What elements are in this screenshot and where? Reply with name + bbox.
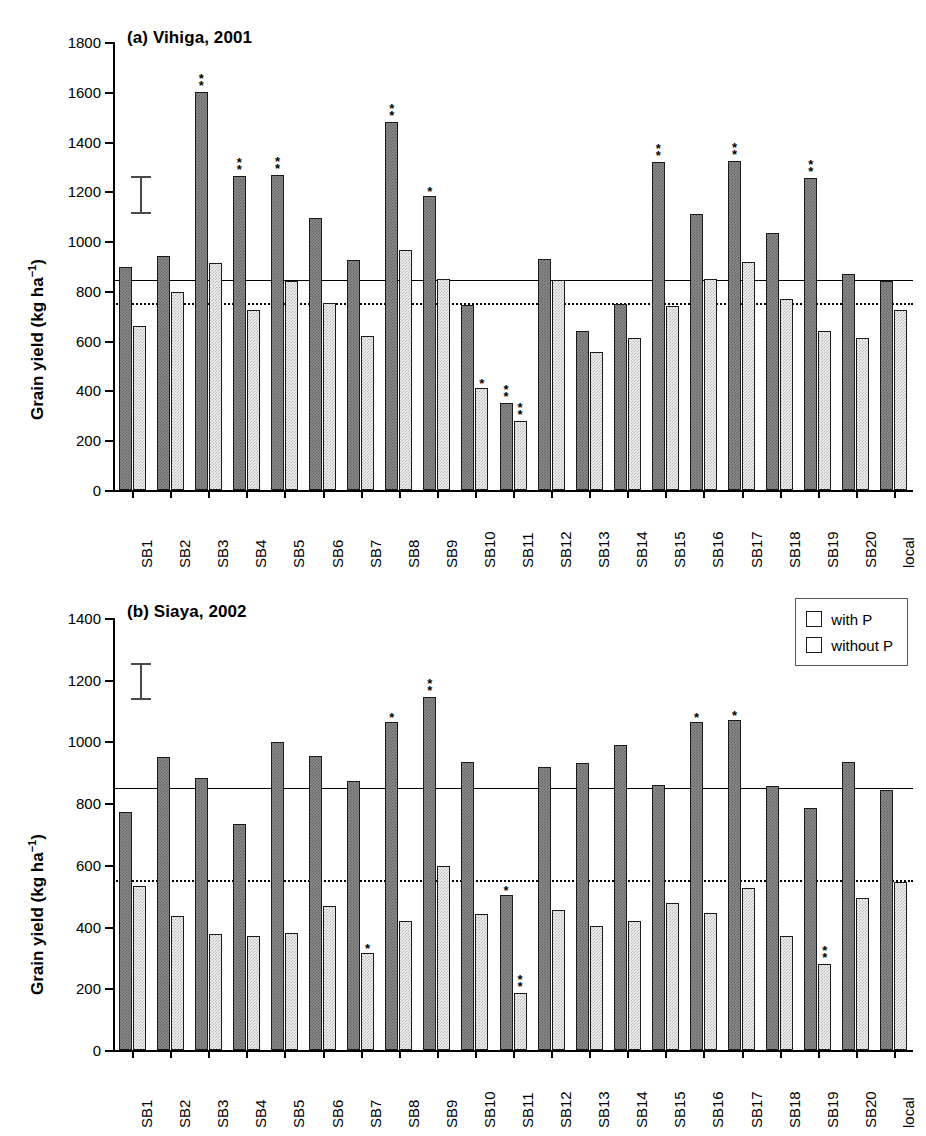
y-axis-tick-label: 600 bbox=[45, 856, 101, 873]
y-axis-tick-label: 1200 bbox=[45, 671, 101, 688]
bar-without-p bbox=[742, 262, 755, 490]
bar-with-p bbox=[690, 214, 703, 490]
bar-without-p bbox=[361, 953, 374, 1050]
bar-with-p bbox=[652, 785, 665, 1050]
legend-label-with-p: with P bbox=[831, 611, 872, 628]
bar-with-p bbox=[880, 790, 893, 1050]
bar-without-p bbox=[666, 306, 679, 490]
reference-line-solid bbox=[113, 788, 913, 789]
x-axis-tick-label: SB2 bbox=[176, 540, 193, 568]
y-axis-tick bbox=[105, 191, 113, 193]
legend: with P without P bbox=[795, 598, 908, 666]
significance-marker: * * bbox=[503, 386, 508, 400]
x-axis-tick bbox=[513, 490, 515, 498]
bar-with-p bbox=[842, 762, 855, 1051]
x-axis-tick-label: SB12 bbox=[557, 531, 574, 568]
figure-root: (a) Vihiga, 2001 Grain yield (kg ha−1) 0… bbox=[0, 0, 926, 1136]
x-axis-tick bbox=[780, 1050, 782, 1058]
bar-with-p bbox=[271, 175, 284, 490]
significance-marker: * * bbox=[517, 976, 522, 990]
lsd-cap-bottom bbox=[131, 212, 151, 214]
x-axis-tick-label: SB14 bbox=[633, 531, 650, 568]
bar-without-p bbox=[361, 336, 374, 490]
x-axis-tick bbox=[475, 490, 477, 498]
bar-without-p bbox=[590, 926, 603, 1050]
lsd-cap-bottom bbox=[131, 698, 151, 700]
x-axis-tick bbox=[170, 490, 172, 498]
y-axis-tick-label: 600 bbox=[45, 332, 101, 349]
significance-marker: * bbox=[479, 380, 484, 387]
panel-b-plot-area: 0200400600800100012001400SB1SB2SB3SB4SB5… bbox=[113, 618, 913, 1050]
y-axis-tick-label: 400 bbox=[45, 382, 101, 399]
x-axis-tick bbox=[703, 490, 705, 498]
bar-without-p bbox=[399, 250, 412, 490]
x-axis-tick bbox=[589, 1050, 591, 1058]
x-axis-tick-label: SB11 bbox=[519, 532, 536, 568]
y-axis-tick bbox=[105, 42, 113, 44]
x-axis-tick-label: SB19 bbox=[824, 1091, 841, 1128]
bar-without-p bbox=[818, 331, 831, 490]
x-axis-tick-label: SB20 bbox=[862, 1091, 879, 1128]
significance-marker: * bbox=[694, 714, 699, 721]
bar-without-p bbox=[285, 933, 298, 1050]
x-axis-tick bbox=[627, 1050, 629, 1058]
y-axis-tick bbox=[105, 865, 113, 867]
y-axis-tick-label: 200 bbox=[45, 432, 101, 449]
x-axis-tick-label: SB4 bbox=[252, 1100, 269, 1128]
significance-marker: * * bbox=[237, 159, 242, 173]
bar-with-p bbox=[119, 267, 132, 490]
bar-without-p bbox=[399, 921, 412, 1050]
bar-without-p bbox=[742, 888, 755, 1050]
x-axis-tick-label: SB9 bbox=[443, 1100, 460, 1128]
legend-item-without-p: without P bbox=[806, 632, 893, 658]
x-axis-tick-label: SB17 bbox=[748, 1091, 765, 1128]
bar-without-p bbox=[628, 338, 641, 490]
bar-with-p bbox=[271, 742, 284, 1050]
y-axis-tick bbox=[105, 1050, 113, 1052]
bar-with-p bbox=[652, 162, 665, 490]
y-axis-tick bbox=[105, 680, 113, 682]
x-axis-tick-label: SB2 bbox=[176, 1100, 193, 1128]
x-axis-tick bbox=[513, 1050, 515, 1058]
x-axis-tick bbox=[703, 1050, 705, 1058]
y-axis-tick bbox=[105, 988, 113, 990]
panel-a-plot-area: 020040060080010001200140016001800SB1SB2*… bbox=[113, 42, 913, 490]
bar-with-p bbox=[690, 722, 703, 1050]
chart-panel-b: (b) Siaya, 2002 Grain yield (kg ha−1) 02… bbox=[0, 580, 926, 1136]
bar-with-p bbox=[842, 274, 855, 490]
bar-with-p bbox=[233, 176, 246, 490]
lsd-stem bbox=[140, 663, 142, 700]
y-axis-tick-label: 1000 bbox=[45, 233, 101, 250]
bar-with-p bbox=[576, 763, 589, 1050]
y-axis-tick-label: 200 bbox=[45, 980, 101, 997]
bar-with-p bbox=[347, 781, 360, 1050]
bar-without-p bbox=[209, 934, 222, 1050]
x-axis-tick bbox=[818, 1050, 820, 1058]
y-axis-tick bbox=[105, 341, 113, 343]
bar-without-p bbox=[514, 993, 527, 1050]
x-axis-tick-label: SB18 bbox=[786, 1091, 803, 1128]
legend-label-without-p: without P bbox=[831, 637, 893, 654]
bar-without-p bbox=[247, 936, 260, 1050]
x-axis-tick-label: SB12 bbox=[557, 1091, 574, 1128]
y-axis-tick-label: 0 bbox=[45, 1042, 101, 1059]
legend-swatch-with-p bbox=[806, 611, 822, 627]
y-axis-line bbox=[113, 42, 115, 490]
significance-marker: * * bbox=[808, 161, 813, 175]
bar-with-p bbox=[461, 305, 474, 490]
y-axis-tick-label: 400 bbox=[45, 918, 101, 935]
bar-without-p bbox=[552, 910, 565, 1050]
x-axis-tick-label: SB6 bbox=[329, 1100, 346, 1128]
y-axis-tick-label: 0 bbox=[45, 482, 101, 499]
x-axis-tick-label: SB18 bbox=[786, 531, 803, 568]
bar-without-p bbox=[171, 916, 184, 1050]
significance-marker: * * bbox=[199, 75, 204, 89]
x-axis-tick bbox=[627, 490, 629, 498]
bar-with-p bbox=[880, 281, 893, 490]
x-axis-tick-label: SB15 bbox=[671, 1091, 688, 1128]
significance-marker: * * bbox=[275, 158, 280, 172]
bar-with-p bbox=[195, 92, 208, 490]
y-axis-tick-label: 800 bbox=[45, 282, 101, 299]
bar-without-p bbox=[704, 279, 717, 490]
x-axis-tick-label: SB15 bbox=[671, 531, 688, 568]
